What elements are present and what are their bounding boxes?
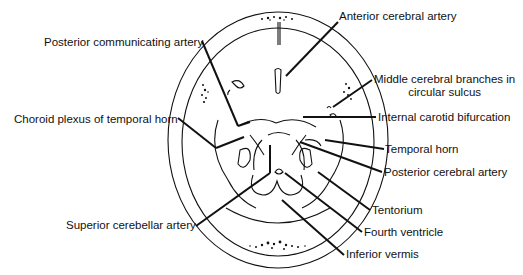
label-posterior-cerebral-artery: Posterior cerebral artery bbox=[384, 166, 507, 179]
frontal-horn bbox=[275, 69, 281, 94]
label-anterior-cerebral-artery: Anterior cerebral artery bbox=[339, 10, 457, 23]
temporal-lobe-left bbox=[215, 120, 256, 208]
label-posterior-communicating-artery: Posterior communicating artery bbox=[44, 36, 203, 49]
cerebellum bbox=[251, 175, 302, 195]
label-middle-cerebral-line2: circular sulcus bbox=[374, 86, 515, 99]
label-inferior-vermis: Inferior vermis bbox=[346, 248, 419, 261]
label-temporal-horn: Temporal horn bbox=[385, 143, 459, 156]
fourth-ventricle-shape bbox=[275, 169, 283, 174]
temporal-lobe-right bbox=[300, 120, 344, 208]
sylvian-right bbox=[327, 107, 336, 118]
label-middle-cerebral-line1: Middle cerebral branches in bbox=[374, 73, 515, 86]
interhemispheric-fissure bbox=[278, 22, 280, 45]
label-tentorium: Tentorium bbox=[372, 204, 423, 217]
occipital-contour bbox=[226, 208, 330, 223]
leader-lines bbox=[178, 22, 384, 255]
label-fourth-ventricle: Fourth ventricle bbox=[364, 226, 443, 239]
label-middle-cerebral-branches: Middle cerebral branches in circular sul… bbox=[374, 73, 515, 99]
label-internal-carotid-bifurcation: Internal carotid bifurcation bbox=[378, 111, 510, 124]
label-superior-cerebellar-artery: Superior cerebellar artery bbox=[66, 219, 196, 232]
label-choroid-plexus-temporal-horn: Choroid plexus of temporal horn bbox=[14, 113, 178, 126]
sylvian-left bbox=[228, 81, 244, 95]
skull-outer-outline bbox=[168, 12, 388, 268]
suprasellar-cistern bbox=[240, 119, 316, 155]
